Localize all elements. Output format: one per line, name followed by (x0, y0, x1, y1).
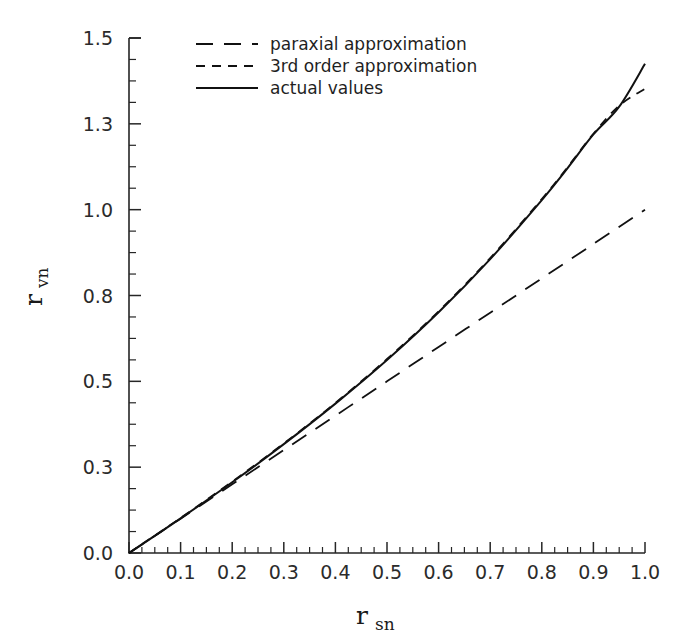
y-axis-title-subscript: vn (32, 267, 52, 289)
x-tick-label: 0.2 (217, 561, 247, 583)
x-tick-label: 0.1 (165, 561, 195, 583)
legend-label: paraxial approximation (270, 34, 467, 54)
legend-label: 3rd order approximation (270, 56, 477, 76)
x-tick-label: 0.7 (475, 561, 505, 583)
x-tick-label: 0.3 (269, 561, 299, 583)
y-tick-label: 1.0 (83, 199, 113, 221)
y-tick-label: 1.5 (83, 27, 113, 49)
x-tick-label: 0.4 (320, 561, 350, 583)
y-tick-label: 0.5 (83, 370, 113, 392)
y-tick-label: 0.0 (83, 542, 113, 564)
legend-label: actual values (270, 78, 383, 98)
x-axis-title-subscript: sn (375, 614, 395, 634)
x-tick-label: 0.9 (578, 561, 608, 583)
x-axis-title-base: r (356, 601, 368, 630)
x-tick-label: 0.0 (114, 561, 144, 583)
x-tick-label: 1.0 (630, 561, 660, 583)
x-tick-label: 0.6 (423, 561, 453, 583)
y-tick-label: 1.3 (83, 113, 113, 135)
x-tick-label: 0.8 (527, 561, 557, 583)
x-tick-label: 0.5 (372, 561, 402, 583)
y-tick-label: 0.8 (83, 285, 113, 307)
y-tick-label: 0.3 (83, 456, 113, 478)
y-axis-title-base: r (19, 294, 48, 306)
chart-figure: 0.00.10.20.30.40.50.60.70.80.91.0 0.00.3… (0, 0, 691, 641)
line-chart: 0.00.10.20.30.40.50.60.70.80.91.0 0.00.3… (0, 0, 691, 641)
